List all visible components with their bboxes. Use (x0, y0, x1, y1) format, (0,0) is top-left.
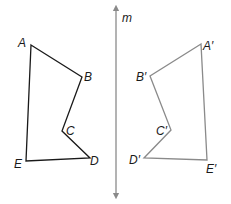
vertex-label-c-prime: C′ (156, 124, 168, 138)
vertex-label-d: D (90, 154, 99, 168)
vertex-label-e-prime: E′ (206, 162, 217, 176)
original-pentagon (26, 45, 90, 161)
vertex-label-a-prime: A′ (202, 39, 214, 53)
vertex-label-e: E (14, 157, 23, 171)
vertex-label-b-prime: B′ (136, 70, 147, 84)
vertex-label-d-prime: D′ (129, 153, 141, 167)
line-label-m: m (122, 11, 132, 25)
reflected-pentagon (144, 44, 207, 160)
reflection-diagram: m A B C D E A′ B′ C′ D′ E′ (0, 0, 231, 204)
vertex-label-b: B (84, 70, 92, 84)
vertex-label-a: A (17, 36, 26, 50)
vertex-label-c: C (66, 124, 75, 138)
